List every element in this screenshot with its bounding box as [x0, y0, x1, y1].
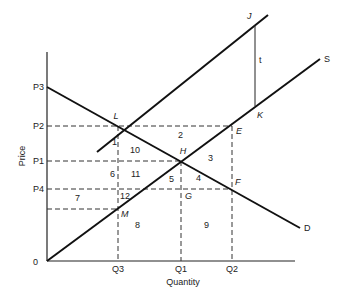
point-e: E	[236, 126, 243, 136]
area-9: 9	[204, 220, 209, 230]
point-g: G	[185, 191, 192, 201]
tick-q3: Q3	[112, 264, 124, 274]
point-m: M	[121, 209, 129, 219]
demand-label: D	[304, 223, 311, 233]
area-1: 1	[112, 137, 117, 147]
point-j: J	[246, 11, 252, 21]
supply-curve	[47, 59, 320, 261]
origin-label: 0	[33, 257, 38, 267]
tax-incidence-diagram: 0 Quantity Price Q3 Q1 Q2 P3 P2 P1 P4 D …	[0, 0, 349, 297]
area-11: 11	[131, 169, 140, 179]
area-8: 8	[135, 220, 140, 230]
point-k: K	[257, 110, 264, 120]
area-3: 3	[208, 153, 213, 163]
area-7: 7	[75, 193, 80, 203]
tick-q1: Q1	[175, 264, 187, 274]
demand-curve	[47, 87, 300, 228]
point-f: F	[235, 177, 241, 187]
tax-label: t	[259, 55, 262, 65]
tick-p2: P2	[33, 121, 44, 131]
area-6: 6	[110, 169, 115, 179]
area-10: 10	[130, 145, 140, 155]
tick-p3: P3	[33, 82, 44, 92]
area-5: 5	[169, 174, 174, 184]
point-h: H	[180, 146, 187, 156]
tick-q2: Q2	[226, 264, 238, 274]
x-axis-label: Quantity	[166, 277, 200, 287]
area-12: 12	[120, 191, 130, 201]
area-4: 4	[196, 173, 201, 183]
supply-label: S	[324, 54, 330, 64]
tick-p1: P1	[33, 156, 44, 166]
tick-p4: P4	[33, 184, 44, 194]
point-l: L	[113, 111, 118, 121]
y-axis-label: Price	[17, 146, 27, 167]
area-2: 2	[178, 130, 183, 140]
